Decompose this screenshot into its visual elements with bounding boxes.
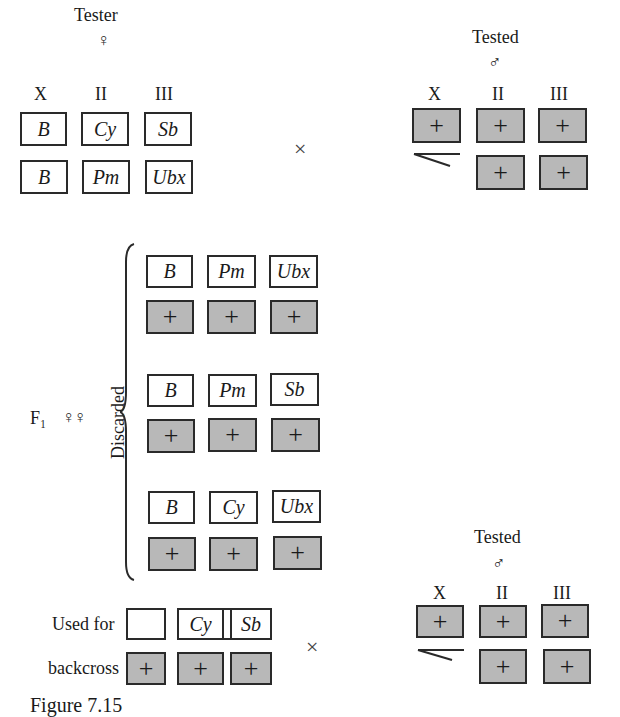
tester-chromosome-ii-2: Pm	[82, 160, 130, 194]
tested-title-bottom: Tested	[474, 527, 521, 548]
tested-bottom-column-iii: III	[553, 583, 571, 604]
cross-symbol-top: ×	[294, 136, 306, 162]
tested-bottom-chromosome-ii-2: +	[479, 649, 527, 684]
tested-top-column-iii: III	[550, 84, 568, 105]
figure-caption: Figure 7.15	[30, 694, 122, 717]
backcross-chromosome-x-box	[126, 608, 166, 640]
backcross-label-line1: Used for	[52, 614, 114, 635]
f1-group1-chromosome-ii: Pm	[207, 255, 256, 288]
backcross-wild-ii: +	[177, 652, 224, 685]
f1-group1-chromosome-x: B	[146, 255, 193, 288]
f1-group2-chromosome-x: B	[147, 374, 194, 407]
f1-group3-chromosome-iii: Ubx	[272, 490, 321, 523]
f1-group3-wild-iii: +	[273, 536, 322, 570]
tested-top-chromosome-x: +	[412, 108, 461, 143]
tested-bottom-chromosome-x: +	[416, 605, 464, 638]
female-pair-symbol-icon: ♀♀	[62, 407, 85, 428]
f1-group1-chromosome-iii: Ubx	[269, 255, 318, 288]
tested-bottom-column-x: X	[433, 583, 446, 604]
tested-bottom-chromosome-iii-1: +	[541, 604, 589, 638]
tester-chromosome-x-2: B	[20, 160, 68, 194]
y-chromosome-icon	[412, 150, 462, 170]
backcross-chromosome-iii: Sb	[230, 608, 272, 640]
f1-group1-wild-x: +	[146, 300, 194, 334]
f1-group2-chromosome-iii: Sb	[270, 373, 319, 406]
f1-group2-wild-x: +	[147, 419, 195, 453]
tester-chromosome-x-1: B	[20, 112, 67, 146]
f1-group3-wild-ii: +	[209, 537, 258, 571]
f1-group3-chromosome-ii: Cy	[209, 491, 258, 524]
column-label-ii: II	[95, 84, 107, 105]
male-symbol-bottom-icon: ♂	[492, 553, 506, 574]
f1-group2-chromosome-ii: Pm	[208, 374, 257, 407]
tested-top-chromosome-ii-1: +	[476, 108, 525, 143]
curly-brace-icon	[120, 242, 140, 582]
column-label-x: X	[34, 84, 47, 105]
tested-top-column-ii: II	[492, 84, 504, 105]
tester-chromosome-iii-2: Ubx	[145, 160, 193, 194]
tester-chromosome-iii-1: Sb	[144, 112, 192, 146]
backcross-wild-x: +	[126, 652, 166, 685]
tester-chromosome-ii-1: Cy	[81, 112, 129, 146]
backcross-label-line2: backcross	[48, 658, 119, 679]
f1-group2-wild-ii: +	[208, 418, 257, 452]
f1-group1-wild-iii: +	[270, 300, 318, 334]
column-label-iii: III	[155, 84, 173, 105]
tested-top-chromosome-iii-2: +	[539, 155, 588, 190]
female-symbol-icon: ♀	[97, 30, 111, 51]
f1-group2-wild-iii: +	[271, 418, 320, 452]
y-chromosome-bottom-icon	[416, 646, 466, 666]
male-symbol-icon: ♂	[488, 52, 502, 73]
tested-top-column-x: X	[428, 84, 441, 105]
tester-title: Tester	[74, 5, 118, 26]
cross-symbol-bottom: ×	[306, 634, 318, 660]
tested-title-top: Tested	[472, 27, 519, 48]
f1-group3-wild-x: +	[148, 537, 196, 571]
tested-top-chromosome-ii-2: +	[476, 155, 525, 190]
tested-top-chromosome-iii-1: +	[538, 108, 587, 143]
f1-label: F₁	[30, 408, 46, 429]
tested-bottom-chromosome-ii-1: +	[479, 605, 527, 638]
f1-group1-wild-ii: +	[207, 300, 256, 334]
f1-group3-chromosome-x: B	[148, 491, 195, 524]
backcross-chromosome-ii: Cy	[177, 608, 224, 640]
tested-bottom-chromosome-iii-2: +	[543, 649, 591, 684]
backcross-wild-iii: +	[230, 652, 272, 685]
tested-bottom-column-ii: II	[496, 583, 508, 604]
